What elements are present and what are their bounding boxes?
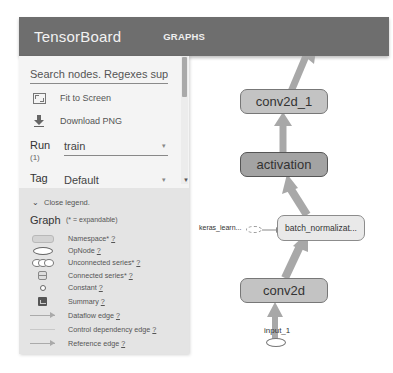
- legend-title: Graph: [30, 214, 61, 226]
- help-link[interactable]: ?: [97, 246, 101, 255]
- sidebar-scrollbar-thumb[interactable]: [182, 57, 187, 97]
- tag-label: Tag: [30, 172, 48, 184]
- legend-item-connected-series: Connected series*?: [30, 270, 180, 281]
- app-title: TensorBoard: [34, 28, 121, 45]
- help-link[interactable]: ?: [152, 325, 156, 334]
- connected-series-icon: [30, 270, 55, 281]
- aux-input-label: keras_learn...: [199, 224, 241, 231]
- scroll-down-arrow-icon[interactable]: ▼: [183, 177, 189, 183]
- help-link[interactable]: ?: [121, 339, 125, 348]
- legend-item-unconnected-series: Unconnected series*?: [30, 257, 180, 268]
- summary-icon: [30, 296, 55, 307]
- legend-item-dataflow-edge: Dataflow edge?: [30, 310, 180, 321]
- close-legend-label: Close legend.: [44, 198, 90, 207]
- download-png-button[interactable]: Download PNG: [32, 115, 122, 127]
- fit-to-screen-button[interactable]: Fit to Screen: [32, 92, 111, 104]
- search-nodes-input[interactable]: Search nodes. Regexes suppor...: [30, 64, 168, 84]
- legend-item-reference-edge: Reference edge?: [30, 338, 180, 349]
- download-icon: [32, 115, 46, 127]
- help-link[interactable]: ?: [129, 271, 133, 280]
- app-header: TensorBoard GRAPHS: [19, 17, 389, 56]
- run-count: (1): [30, 153, 40, 162]
- node-conv2d-1[interactable]: conv2d_1: [240, 89, 328, 114]
- run-value: train: [64, 140, 85, 152]
- help-link[interactable]: ?: [136, 258, 140, 267]
- chevron-down-icon: ▾: [162, 138, 166, 154]
- fit-to-screen-label: Fit to Screen: [60, 93, 111, 103]
- download-png-label: Download PNG: [60, 116, 122, 126]
- constant-icon: [30, 282, 55, 293]
- tab-graphs[interactable]: GRAPHS: [163, 31, 205, 42]
- control-dependency-edge-icon: [30, 324, 55, 335]
- reference-edge-icon: [30, 338, 55, 349]
- help-link[interactable]: ?: [101, 297, 105, 306]
- namespace-icon: [30, 233, 55, 244]
- legend-item-namespace: Namespace*?: [30, 233, 180, 244]
- close-legend-button[interactable]: ⌄ Close legend.: [32, 198, 90, 207]
- chevron-down-icon: ▾: [162, 172, 166, 188]
- graph-canvas[interactable]: conv2d_1 activation batch_normalizat... …: [190, 56, 393, 373]
- help-link[interactable]: ?: [99, 283, 103, 292]
- aux-input-node[interactable]: [246, 226, 262, 233]
- fit-to-screen-icon: [32, 92, 46, 104]
- help-link[interactable]: ?: [116, 311, 120, 320]
- chevron-down-icon: ⌄: [32, 198, 39, 207]
- legend-item-control-dependency-edge: Control dependency edge?: [30, 324, 180, 335]
- unconnected-series-icon: [30, 257, 55, 268]
- node-activation[interactable]: activation: [240, 152, 328, 177]
- legend-item-opnode: OpNode?: [30, 245, 180, 256]
- help-link[interactable]: ?: [111, 234, 115, 243]
- legend-note: (* = expandable): [66, 216, 118, 223]
- node-input-1[interactable]: [266, 338, 286, 347]
- run-select[interactable]: train ▾: [64, 138, 168, 156]
- legend-item-summary: Summary?: [30, 296, 180, 307]
- run-label: Run: [30, 139, 50, 151]
- legend-item-constant: Constant?: [30, 282, 180, 293]
- dataflow-edge-icon: [30, 310, 55, 321]
- opnode-icon: [30, 245, 55, 256]
- node-conv2d[interactable]: conv2d: [240, 278, 328, 303]
- input-node-label: input_1: [264, 326, 290, 335]
- node-batch-normalization[interactable]: batch_normalizat...: [277, 215, 365, 241]
- tag-value: Default: [64, 174, 99, 186]
